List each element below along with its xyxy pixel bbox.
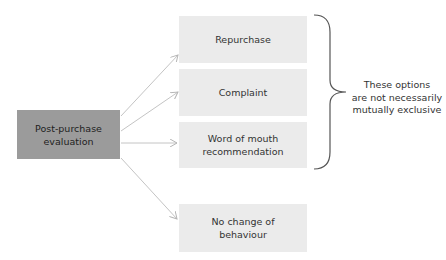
complaint-label: Complaint [219,86,268,99]
arrow-to-repurchase [121,55,178,116]
brace-note-line3: mutually exclusive [348,104,446,117]
word-of-mouth-node: Word of mouth recommendation [179,122,307,168]
brace-note-line2: are not necessarily [348,92,446,105]
repurchase-node: Repurchase [179,16,307,63]
brace-note-line1: These options [348,79,446,92]
source-label-line1: Post-purchase [35,122,102,135]
post-purchase-evaluation-node: Post-purchase evaluation [17,110,120,159]
arrow-to-no-change [121,158,177,219]
brace-note: These options are not necessarily mutual… [348,79,446,117]
no-change-label-line2: behaviour [211,228,274,241]
word-of-mouth-label-line1: Word of mouth [202,132,283,145]
curly-brace-icon [314,15,346,169]
arrow-to-complaint [121,92,178,131]
complaint-node: Complaint [179,69,307,116]
no-change-label-line1: No change of [211,215,274,228]
source-label-line2: evaluation [35,135,102,148]
word-of-mouth-label-line2: recommendation [202,145,283,158]
no-change-node: No change of behaviour [179,204,307,252]
repurchase-label: Repurchase [215,33,271,46]
